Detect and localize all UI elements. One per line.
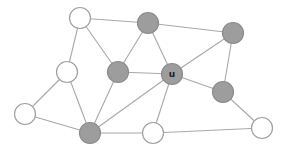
node-circle [80, 123, 101, 144]
node-j [252, 118, 273, 139]
node-h [80, 123, 101, 144]
node-g [15, 104, 36, 125]
node-i [143, 123, 164, 144]
edge-i-j [153, 128, 262, 133]
node-e [108, 62, 129, 83]
node-d [57, 62, 78, 83]
node-circle [108, 62, 129, 83]
node-circle [143, 123, 164, 144]
node-circle [252, 118, 273, 139]
node-c [223, 23, 244, 44]
node-b [138, 13, 159, 34]
edge-b-c [148, 23, 233, 33]
node-circle [213, 82, 234, 103]
node-circle [15, 104, 36, 125]
node-f [213, 82, 234, 103]
node-label: u [169, 69, 175, 79]
edge-u-h [90, 74, 172, 133]
nodes-layer: u [15, 8, 273, 144]
node-a [70, 8, 91, 29]
node-u: u [162, 64, 183, 85]
node-circle [223, 23, 244, 44]
node-circle [57, 62, 78, 83]
graph-diagram: u [0, 0, 286, 152]
node-circle [70, 8, 91, 29]
node-circle [138, 13, 159, 34]
